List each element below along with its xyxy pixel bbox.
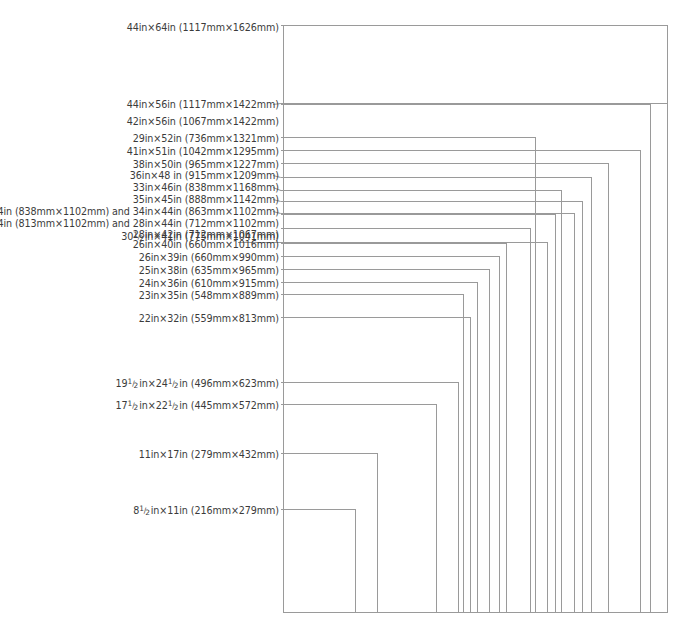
label-group: 44in×64in (1117mm×1626mm)44in×56in (1117… bbox=[0, 0, 279, 634]
size-label-38x50: 38in×50in (965mm×1227mm) bbox=[133, 159, 279, 170]
size-label-24x36: 24in×36in (610mm×915mm) bbox=[139, 278, 279, 289]
size-label-11x17: 11in×17in (279mm×432mm) bbox=[139, 449, 279, 460]
size-label-44x64: 44in×64in (1117mm×1626mm) bbox=[127, 22, 279, 33]
size-label-26x40: 26in×40in (660mm×1016mm) bbox=[133, 239, 279, 250]
size-label-22x32: 22in×32in (559mm×813mm) bbox=[139, 313, 279, 324]
size-label-35x45: 35in×45in (888mm×1142mm) bbox=[133, 194, 279, 205]
size-label-33x46: 33in×46in (838mm×1168mm) bbox=[133, 182, 279, 193]
size-label-36x48: 36in×48 in (915mm×1209mm) bbox=[130, 170, 279, 181]
size-label-17h-x22h: 171/2in×221/2in (445mm×572mm) bbox=[116, 400, 279, 412]
size-label-42x56: 42in×56in (1067mm×1422mm) bbox=[127, 116, 279, 127]
size-label-32-28x44: 32in×44in (813mm×1102mm) and 28in×44in (… bbox=[0, 218, 279, 229]
size-label-26x39: 26in×39in (660mm×990mm) bbox=[139, 252, 279, 263]
size-label-23x35: 23in×35in (548mm×889mm) bbox=[139, 290, 279, 301]
size-label-25x38: 25in×38in (635mm×965mm) bbox=[139, 265, 279, 276]
size-label-41x51: 41in×51in (1042mm×1295mm) bbox=[127, 146, 279, 157]
size-label-19h-x24h: 191/2in×241/2in (496mm×623mm) bbox=[116, 378, 279, 390]
size-label-8h-x11: 81/2in×11in (216mm×279mm) bbox=[133, 505, 279, 517]
size-label-29x52: 29in×52in (736mm×1321mm) bbox=[133, 133, 279, 144]
size-label-33-34x44: 33in×44in (838mm×1102mm) and 34in×44in (… bbox=[0, 206, 279, 217]
paper-size-diagram: 44in×64in (1117mm×1626mm)44in×56in (1117… bbox=[0, 0, 691, 634]
size-label-44x56: 44in×56in (1117mm×1422mm) bbox=[127, 99, 279, 110]
size-rect-44x64 bbox=[283, 25, 668, 613]
